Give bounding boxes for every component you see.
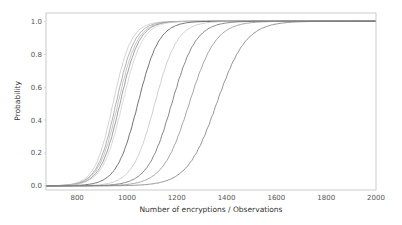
line-curve-3: [46, 21, 376, 186]
y-tick-label: 0.4: [31, 117, 43, 125]
y-tick-label: 0.2: [31, 149, 42, 157]
x-tick-label: 1200: [168, 194, 186, 202]
x-tick-label: 2000: [367, 194, 385, 202]
line-curve-1: [46, 21, 376, 186]
x-tick-label: 1400: [218, 194, 236, 202]
probability-chart: 800100012001400160018002000 0.00.20.40.6…: [0, 0, 402, 225]
line-curve-5: [46, 21, 376, 186]
y-tick-label: 1.0: [31, 18, 42, 26]
x-axis-ticks: 800100012001400160018002000: [70, 194, 384, 202]
y-axis-label: Probability: [13, 81, 22, 121]
line-curve-7: [46, 21, 376, 186]
curve-group: [46, 21, 376, 186]
y-axis-ticks: 0.00.20.40.60.81.0: [31, 18, 46, 191]
y-tick-label: 0.6: [31, 84, 43, 92]
x-axis-label: Number of encryptions / Observations: [139, 205, 282, 214]
line-curve-6: [46, 21, 376, 186]
line-curve-8: [46, 21, 376, 186]
line-curve-2: [46, 21, 376, 186]
x-tick-label: 1000: [118, 194, 136, 202]
x-tick-label: 800: [70, 194, 83, 202]
line-curve-4: [46, 21, 376, 186]
line-curve-10: [46, 21, 376, 186]
y-tick-label: 0.0: [31, 182, 42, 190]
x-tick-label: 1600: [267, 194, 285, 202]
x-tick-label: 1800: [317, 194, 335, 202]
y-tick-label: 0.8: [31, 51, 42, 59]
plot-frame: [46, 13, 376, 190]
line-curve-9: [46, 21, 376, 186]
